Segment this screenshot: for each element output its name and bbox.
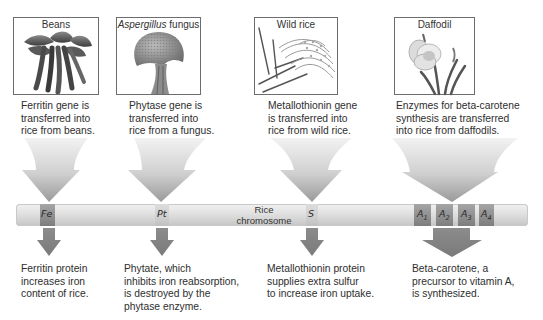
- fe-expression-arrow-icon: [37, 228, 61, 256]
- ferritin-outcome-caption: Ferritin proteinincreases ironcontent of…: [21, 263, 89, 301]
- metallothionin-outcome-caption: Metallothionin proteinsupplies extra sul…: [267, 263, 374, 301]
- phytate-outcome-caption: Phytate, whichinhibits iron reabsorption…: [124, 263, 239, 313]
- a-genes-expression-arrow-icon: [422, 228, 482, 257]
- pt-expression-arrow-icon: [150, 228, 174, 256]
- beta-carotene-outcome-caption: Beta-carotene, aprecursor to vitamin A,i…: [412, 263, 514, 301]
- s-expression-arrow-icon: [300, 228, 324, 256]
